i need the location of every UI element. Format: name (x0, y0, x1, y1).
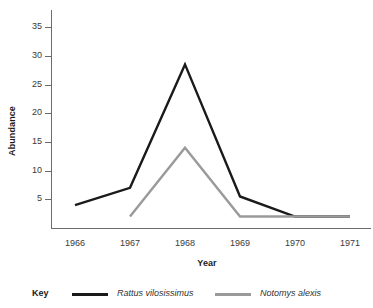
chart-legend: Key Rattus vilosissimus Notomys alexis (0, 288, 373, 308)
x-tick-label: 1966 (53, 239, 97, 248)
series-line-rattus-vilosissimus (75, 64, 350, 216)
y-tick-label: 35 (18, 22, 42, 31)
y-tick-label: 30 (18, 51, 42, 60)
y-tick-mark (45, 171, 51, 172)
x-tick-label: 1967 (108, 239, 152, 248)
x-tick-label: 1968 (163, 239, 207, 248)
y-tick-label: 15 (18, 137, 42, 146)
y-tick-mark (45, 85, 51, 86)
legend-title: Key (32, 288, 49, 298)
legend-line-swatch-black (72, 293, 108, 296)
legend-line-swatch-gray (215, 293, 251, 296)
x-tick-label: 1971 (328, 239, 372, 248)
y-tick-mark (45, 142, 51, 143)
chart-figure: Abundance 5101520253035 1966196719681969… (0, 0, 373, 308)
y-tick-label: 5 (18, 194, 42, 203)
legend-label-notomys-alexis: Notomys alexis (260, 288, 321, 298)
y-axis-title: Abundance (7, 86, 17, 176)
legend-label-rattus-vilosissimus: Rattus vilosissimus (117, 288, 194, 298)
y-tick-label: 10 (18, 166, 42, 175)
x-tick-label: 1970 (273, 239, 317, 248)
series-line-notomys-alexis (130, 148, 350, 217)
y-tick-mark (45, 113, 51, 114)
y-tick-mark (45, 56, 51, 57)
x-axis-title: Year (51, 258, 363, 268)
y-axis-line (51, 10, 52, 229)
x-axis-line (51, 228, 371, 229)
y-tick-mark (45, 199, 51, 200)
y-tick-label: 20 (18, 108, 42, 117)
y-tick-label: 25 (18, 80, 42, 89)
x-tick-label: 1969 (218, 239, 262, 248)
y-tick-mark (45, 27, 51, 28)
